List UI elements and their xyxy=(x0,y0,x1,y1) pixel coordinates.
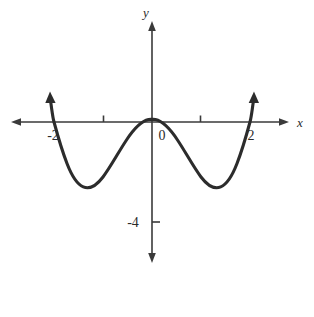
graph-figure: y x -2 2 0 -4 xyxy=(0,0,314,317)
origin-label: 0 xyxy=(159,128,166,143)
x-axis-label: x xyxy=(296,115,303,130)
x-tick-label-2: 2 xyxy=(248,128,255,143)
coordinate-plane-svg: y x -2 2 0 -4 xyxy=(0,0,314,317)
curve-right-arrowhead xyxy=(249,92,259,104)
x-axis-right-arrowhead xyxy=(279,118,289,126)
y-tick-label-minus-4: -4 xyxy=(127,215,139,230)
x-axis-left-arrowhead xyxy=(11,118,21,126)
curve-left-arrowhead xyxy=(45,92,55,104)
x-tick-label-minus-2: -2 xyxy=(47,128,59,143)
y-axis-down-arrowhead xyxy=(148,253,156,263)
y-axis-up-arrowhead xyxy=(148,21,156,31)
y-axis-label: y xyxy=(141,5,149,20)
